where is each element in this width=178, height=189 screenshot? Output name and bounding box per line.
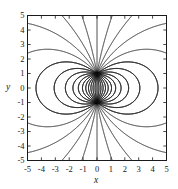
- x-tick-label: -3: [48, 165, 62, 174]
- y-tick-label: -2: [11, 113, 25, 122]
- x-tick-label: 1: [104, 165, 118, 174]
- y-tick-label: 5: [11, 11, 25, 20]
- y-tick-label: 1: [11, 69, 25, 78]
- x-axis-title: x: [90, 176, 102, 186]
- x-tick-label: 2: [118, 165, 132, 174]
- x-tick-label: -2: [62, 165, 76, 174]
- y-tick-label: 4: [11, 26, 25, 35]
- figure-container: -5-4-3-2-1012345 -5-4-3-2-1012345 y x: [0, 0, 178, 189]
- y-tick-label: -4: [11, 142, 25, 151]
- y-tick-label: -5: [11, 156, 25, 165]
- x-tick-label: -4: [34, 165, 48, 174]
- y-tick-label: -1: [11, 98, 25, 107]
- x-tick-label: 0: [90, 165, 104, 174]
- x-tick-label: -1: [76, 165, 90, 174]
- x-tick-label: -5: [21, 165, 35, 174]
- y-axis-title: y: [2, 83, 14, 93]
- y-tick-label: 3: [11, 40, 25, 49]
- x-tick-label: 5: [160, 165, 174, 174]
- x-tick-label: 4: [146, 165, 160, 174]
- x-tick-label: 3: [132, 165, 146, 174]
- field-line-plot: [0, 0, 178, 189]
- y-tick-label: 2: [11, 55, 25, 64]
- y-tick-label: -3: [11, 127, 25, 136]
